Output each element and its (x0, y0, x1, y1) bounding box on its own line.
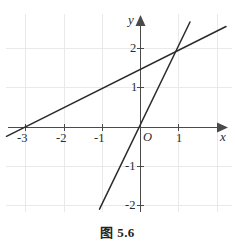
y-tick-label: -2 (125, 199, 135, 212)
x-tick-label: -3 (17, 132, 27, 145)
x-tick-label: -2 (56, 132, 66, 145)
x-tick-label: -1 (94, 132, 104, 145)
origin-label: O (143, 131, 152, 144)
x-tick-label: 1 (176, 132, 182, 145)
y-axis-arrow-icon (136, 15, 146, 26)
axes (8, 15, 228, 212)
figure-container: y x O -3 -2 -1 1 -2 -1 1 2 图 5.6 (0, 0, 235, 251)
y-tick-label: 2 (130, 42, 136, 55)
x-axis-label: x (220, 130, 226, 143)
line-shallow (7, 27, 227, 137)
y-tick-label: -1 (125, 160, 135, 173)
grid-lines (6, 14, 232, 212)
y-axis-label: y (128, 13, 134, 26)
figure-caption: 图 5.6 (0, 222, 235, 241)
line-steep (100, 22, 191, 209)
y-tick-label: 1 (131, 81, 137, 94)
plotted-lines (7, 22, 227, 209)
coordinate-plot (0, 0, 235, 251)
